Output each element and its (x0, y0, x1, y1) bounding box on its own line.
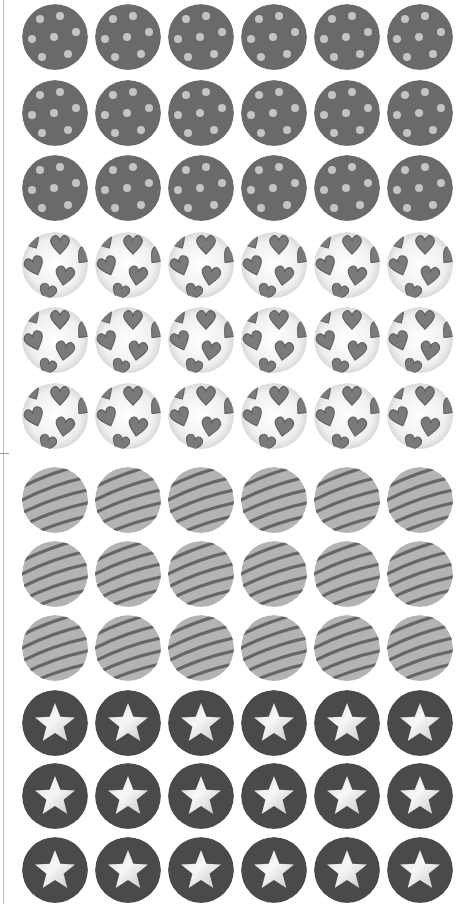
heart-icon (314, 383, 380, 449)
polka-dot-badge (168, 80, 234, 146)
polka-dot-badge (95, 4, 161, 70)
heart-icon (387, 232, 453, 298)
polka-dot-icon (95, 4, 161, 70)
heart-icon (241, 232, 307, 298)
polka-dot-icon (241, 4, 307, 70)
polka-dot-badge (95, 155, 161, 221)
stripes-badge (241, 541, 307, 607)
star-icon (387, 837, 453, 903)
heart-icon (387, 307, 453, 373)
hearts-badge (22, 307, 88, 373)
polka-dot-icon (22, 80, 88, 146)
polka-dot-icon (314, 4, 380, 70)
polka-dot-badge (168, 4, 234, 70)
star-icon (22, 837, 88, 903)
polka-dot-icon (387, 4, 453, 70)
stripes-icon (241, 467, 307, 533)
star-icon (22, 763, 88, 829)
star-badge (387, 763, 453, 829)
polka-dot-icon (314, 80, 380, 146)
polka-dot-icon (387, 80, 453, 146)
star-badge (168, 837, 234, 903)
star-icon (168, 837, 234, 903)
stripes-badge (22, 615, 88, 681)
star-badge (168, 690, 234, 756)
star-badge (241, 690, 307, 756)
star-badge (241, 837, 307, 903)
stripes-icon (314, 467, 380, 533)
stripes-icon (22, 615, 88, 681)
hearts-badge (95, 232, 161, 298)
hearts-badge (22, 232, 88, 298)
stripes-icon (22, 541, 88, 607)
polka-dot-icon (241, 80, 307, 146)
heart-icon (241, 383, 307, 449)
hearts-badge (387, 383, 453, 449)
star-icon (168, 763, 234, 829)
heart-icon (387, 383, 453, 449)
hearts-badge (241, 307, 307, 373)
hearts-badge (241, 383, 307, 449)
star-badge (314, 763, 380, 829)
polka-dot-badge (241, 4, 307, 70)
star-badge (95, 763, 161, 829)
star-icon (95, 690, 161, 756)
stripes-badge (314, 467, 380, 533)
polka-dot-badge (95, 80, 161, 146)
stripes-badge (314, 615, 380, 681)
heart-icon (168, 307, 234, 373)
hearts-badge (168, 307, 234, 373)
heart-icon (314, 232, 380, 298)
star-icon (387, 690, 453, 756)
star-badge (22, 690, 88, 756)
stripes-icon (95, 541, 161, 607)
stripes-icon (241, 615, 307, 681)
star-icon (241, 837, 307, 903)
star-badge (22, 837, 88, 903)
star-badge (241, 763, 307, 829)
stripes-badge (387, 615, 453, 681)
polka-dot-icon (387, 155, 453, 221)
polka-dot-badge (387, 80, 453, 146)
star-icon (95, 763, 161, 829)
stripes-icon (241, 541, 307, 607)
heart-icon (22, 307, 88, 373)
star-icon (314, 690, 380, 756)
stripes-badge (241, 615, 307, 681)
stripes-badge (168, 541, 234, 607)
polka-dot-icon (314, 155, 380, 221)
hearts-badge (95, 307, 161, 373)
polka-dot-badge (241, 80, 307, 146)
polka-dot-badge (168, 155, 234, 221)
hearts-badge (314, 232, 380, 298)
heart-icon (22, 232, 88, 298)
hearts-badge (241, 232, 307, 298)
star-badge (387, 837, 453, 903)
heart-icon (95, 307, 161, 373)
polka-dot-icon (22, 4, 88, 70)
stripes-icon (314, 615, 380, 681)
star-badge (314, 837, 380, 903)
stripes-badge (168, 615, 234, 681)
star-badge (22, 763, 88, 829)
stripes-badge (22, 467, 88, 533)
stripes-icon (168, 541, 234, 607)
polka-dot-badge (387, 155, 453, 221)
star-badge (314, 690, 380, 756)
heart-icon (241, 307, 307, 373)
stripes-badge (95, 467, 161, 533)
star-icon (22, 690, 88, 756)
stripes-badge (314, 541, 380, 607)
stripes-icon (387, 467, 453, 533)
stripes-badge (22, 541, 88, 607)
polka-dot-icon (95, 155, 161, 221)
heart-icon (22, 383, 88, 449)
heart-icon (314, 307, 380, 373)
stripes-badge (387, 541, 453, 607)
polka-dot-icon (22, 155, 88, 221)
star-icon (387, 763, 453, 829)
hearts-badge (95, 383, 161, 449)
star-badge (95, 837, 161, 903)
star-icon (95, 837, 161, 903)
hearts-badge (168, 383, 234, 449)
